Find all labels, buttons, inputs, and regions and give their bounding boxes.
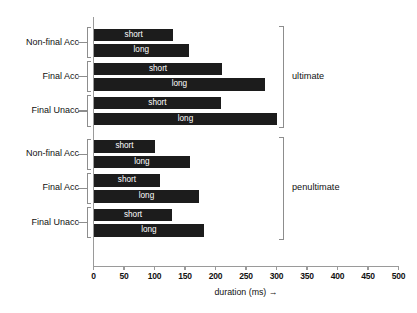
x-tick-label-300: 300 — [263, 271, 291, 281]
x-tick-label-500: 500 — [385, 271, 413, 281]
bar-penultimate-non-final-acc-long: long — [94, 156, 190, 169]
x-tick-label-100: 100 — [141, 271, 169, 281]
x-tick-label-200: 200 — [202, 271, 230, 281]
x-tick-150 — [184, 266, 185, 270]
x-axis-title: duration (ms) → — [93, 287, 399, 297]
x-tick-250 — [245, 266, 246, 270]
x-tick-300 — [276, 266, 277, 270]
x-tick-label-50: 50 — [110, 271, 138, 281]
x-tick-label-400: 400 — [324, 271, 352, 281]
x-tick-label-350: 350 — [293, 271, 321, 281]
x-tick-450 — [367, 266, 368, 270]
bar-ultimate-final-acc-long: long — [94, 78, 265, 91]
category-bracket — [87, 61, 91, 92]
category-label-non-final-acc: Non-final Acc — [0, 148, 79, 158]
x-tick-400 — [337, 266, 338, 270]
category-bracket — [87, 207, 91, 238]
group-bracket-ultimate — [279, 26, 284, 129]
bar-ultimate-final-unacc-long: long — [94, 113, 277, 126]
category-bracket — [87, 27, 91, 58]
category-bracket — [87, 95, 91, 126]
bar-penultimate-final-acc-long: long — [94, 190, 199, 203]
group-bracket-penultimate — [279, 137, 284, 240]
x-tick-label-250: 250 — [232, 271, 260, 281]
x-tick-label-450: 450 — [354, 271, 382, 281]
bar-ultimate-final-unacc-short: short — [94, 97, 221, 110]
x-tick-label-0: 0 — [80, 271, 108, 281]
x-tick-350 — [306, 266, 307, 270]
bar-chart: 050100150200250300350400450500 shortlong… — [0, 0, 417, 313]
group-label-ultimate: ultimate — [292, 71, 324, 81]
bar-penultimate-final-acc-short: short — [94, 174, 160, 187]
bar-penultimate-final-unacc-short: short — [94, 209, 172, 222]
x-tick-200 — [215, 266, 216, 270]
category-tick — [78, 222, 87, 223]
bar-ultimate-non-final-acc-short: short — [94, 29, 173, 42]
category-bracket — [87, 139, 91, 170]
bar-ultimate-non-final-acc-long: long — [94, 44, 189, 57]
category-label-final-unacc: Final Unacc — [0, 217, 79, 227]
category-bracket — [87, 173, 91, 204]
x-tick-500 — [398, 266, 399, 270]
group-label-penultimate: penultimate — [292, 182, 340, 192]
x-tick-label-150: 150 — [171, 271, 199, 281]
x-tick-50 — [123, 266, 124, 270]
category-label-final-unacc: Final Unacc — [0, 105, 79, 115]
bar-penultimate-non-final-acc-short: short — [94, 140, 155, 153]
category-tick — [78, 154, 87, 155]
category-label-final-acc: Final Acc — [0, 182, 79, 192]
category-label-final-acc: Final Acc — [0, 71, 79, 81]
category-label-non-final-acc: Non-final Acc — [0, 37, 79, 47]
bar-penultimate-final-unacc-long: long — [94, 224, 204, 237]
category-tick — [78, 42, 87, 43]
bar-ultimate-final-acc-short: short — [94, 63, 222, 76]
category-tick — [78, 188, 87, 189]
x-tick-100 — [154, 266, 155, 270]
category-tick — [78, 110, 87, 111]
x-tick-0 — [93, 266, 94, 270]
category-tick — [78, 76, 87, 77]
